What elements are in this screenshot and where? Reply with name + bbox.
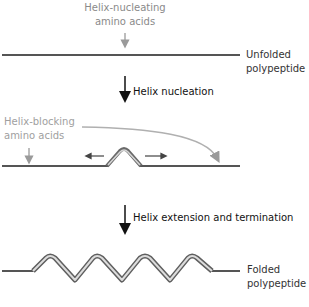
diagram-canvas [0,0,309,307]
unfolded-label-line1: Unfolded [246,48,305,62]
helix-extension-label: Helix extension and termination [133,211,293,225]
curved-gray-arrow [82,127,217,158]
folded-helix [2,256,240,280]
folded-label-line2: polypeptide [247,277,306,291]
blocking-label: Helix-blocking amino acids [4,115,75,143]
helix-nucleation-label: Helix nucleation [133,85,214,99]
blocking-label-line2: amino acids [4,129,75,143]
unfolded-label-line2: polypeptide [246,62,305,76]
nucleating-label-line2: amino acids [84,15,165,29]
nucleating-label-line1: Helix-nucleating [84,1,165,15]
unfolded-label: Unfolded polypeptide [246,48,305,76]
folded-label: Folded polypeptide [247,263,306,291]
blocking-label-line1: Helix-blocking [4,115,75,129]
nucleating-label: Helix-nucleating amino acids [84,1,165,29]
folded-label-line1: Folded [247,263,306,277]
nucleated-polypeptide [2,149,240,166]
